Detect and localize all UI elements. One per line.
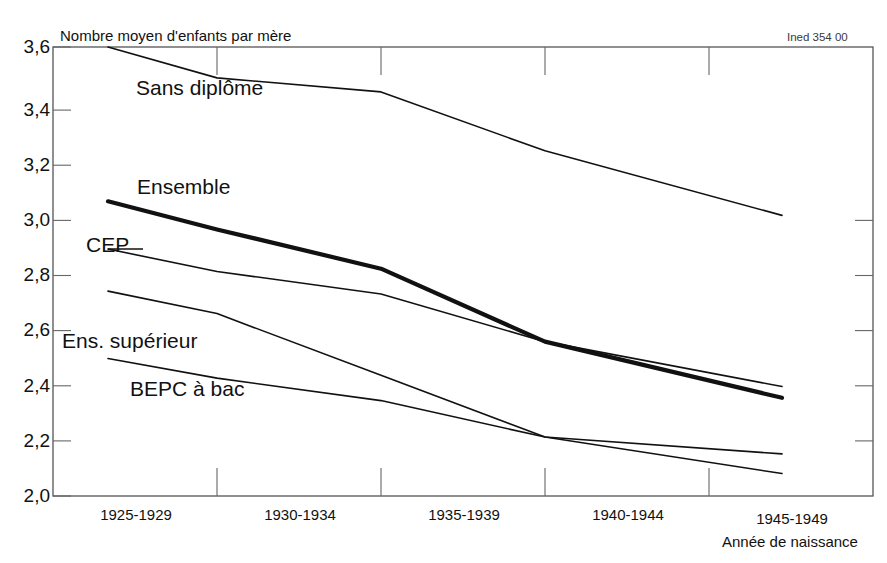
plot-frame — [53, 47, 873, 496]
y-tick-label-3-4: 3,4 — [8, 99, 50, 121]
series-lines-group — [108, 47, 782, 474]
y-tick-label-3-6: 3,6 — [8, 36, 50, 58]
x-tick-label-1945-1949: 1945-1949 — [712, 510, 872, 527]
x-axis-title: Année de naissance — [722, 533, 858, 550]
y-tick-label-3-2: 3,2 — [8, 154, 50, 176]
x-axis-ticks-bottom — [217, 468, 709, 496]
x-tick-label-1925-1929: 1925-1929 — [56, 506, 216, 523]
y-tick-label-2-6: 2,6 — [8, 319, 50, 341]
x-tick-label-1930-1934: 1930-1934 — [220, 506, 380, 523]
series-label-ens-superieur: Ens. supérieur — [62, 329, 197, 353]
chart-canvas — [0, 0, 887, 563]
y-axis-ticks — [53, 47, 71, 496]
series-label-sans-diplome: Sans diplôme — [136, 76, 263, 100]
y-axis-title: Nombre moyen d'enfants par mère — [60, 27, 291, 44]
y-tick-label-2-8: 2,8 — [8, 264, 50, 286]
series-line-cep — [108, 249, 782, 387]
series-label-bepc-a-bac: BEPC à bac — [130, 377, 244, 401]
series-line-ensemble — [108, 201, 782, 397]
y-tick-label-3-0: 3,0 — [8, 209, 50, 231]
credit-label: Ined 354 00 — [787, 31, 848, 43]
series-label-cep: CEP — [86, 233, 129, 257]
y-tick-label-2-4: 2,4 — [8, 375, 50, 397]
x-tick-label-1935-1939: 1935-1939 — [384, 506, 544, 523]
figure-chart-fecondity-by-diploma: 3,6 3,4 3,2 3,0 2,8 2,6 2,4 2,2 2,0 Nomb… — [0, 0, 887, 563]
x-axis-ticks-top — [217, 47, 709, 75]
series-label-ensemble: Ensemble — [137, 175, 230, 199]
y-axis-ticks-right — [855, 220, 873, 441]
x-tick-label-1940-1944: 1940-1944 — [548, 506, 708, 523]
y-tick-label-2-2: 2,2 — [8, 430, 50, 452]
y-tick-label-2-0: 2,0 — [8, 485, 50, 507]
